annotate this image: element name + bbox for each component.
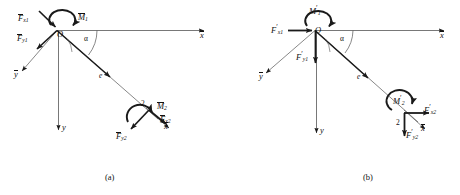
panel-a-geometry [22, 10, 204, 130]
angle-label-alpha-a: α [84, 35, 88, 43]
moment-1-arc-a [49, 10, 75, 26]
axis-label-x-bar-point2-b: x [421, 124, 425, 133]
force-x1-label-a: Fx1 [18, 14, 29, 24]
moment-1-label-b: M′1 [309, 6, 321, 17]
axis-label-y-bar-a: y [14, 70, 18, 79]
force-x2-label-b: F′x2 [424, 105, 436, 116]
origin-label-b: O [315, 26, 321, 35]
figure-canvas: O α e 2 x y y x Fx1 Fy1 M1 M2 Fx2 Fy2 (a… [0, 0, 460, 195]
force-x2-label-a: Fx2 [160, 115, 171, 125]
force-x1-label-b: F′x1 [271, 25, 283, 36]
caption-a: (a) [105, 172, 114, 182]
origin-label-a: O [57, 30, 63, 39]
axis-label-y-a: y [62, 123, 66, 132]
point-label-2-a: 2 [141, 100, 145, 108]
force-y1-label-a: Fy1 [17, 34, 28, 44]
moment-2-label-b: M′2 [393, 96, 405, 107]
angle-arc-alpha-a [89, 31, 98, 56]
axis-label-x-bar-b: x [440, 31, 444, 40]
eccentricity-label-e-a: e [99, 72, 102, 80]
angle-arc-alpha-b [345, 31, 353, 54]
force-y1-arrow-a [37, 31, 57, 50]
force-y2-arrow-a [131, 110, 149, 129]
angle-label-alpha-b: α [340, 35, 344, 43]
diagram-vector-layer [0, 0, 460, 195]
axis-label-x-bar-a: x [200, 31, 204, 40]
eccentricity-label-e-b: e [357, 73, 360, 81]
axis-label-y-bar-b: y [259, 72, 263, 81]
caption-b: (b) [363, 172, 373, 182]
force-y2-label-a: Fy2 [116, 132, 127, 142]
moment-1-label-a: M1 [78, 13, 88, 23]
force-y1-label-b: F′y1 [296, 52, 308, 63]
force-y2-label-b: F′y2 [406, 130, 418, 141]
axis-label-y-b: y [320, 126, 324, 135]
point-label-2-b: 2 [396, 119, 400, 127]
moment-2-label-a: M2 [157, 102, 167, 112]
panel-b-geometry [266, 11, 444, 136]
